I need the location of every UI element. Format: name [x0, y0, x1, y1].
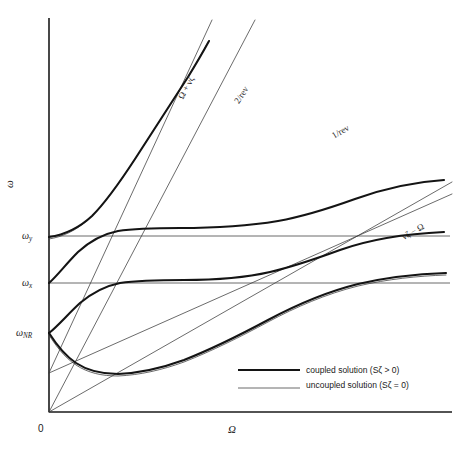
y-tick-omega-nr-base: ω	[16, 327, 23, 338]
omega-plus-nu-zeta-line	[49, 20, 212, 373]
legend-line-placeholder-uncoupled	[236, 379, 298, 391]
y-tick-omega-y-base: ω	[22, 230, 29, 241]
legend-label-coupled: coupled solution (Sζ > 0)	[306, 365, 399, 375]
y-tick-omega-nr-sub: NR	[23, 332, 32, 340]
y-axis-label: ω	[4, 180, 15, 188]
origin-label: 0	[38, 424, 44, 434]
legend: coupled solution (Sζ > 0) uncoupled solu…	[236, 362, 448, 392]
figure-container: ω Ω 0 ωy ωx ωNR Ω + νζ 2/rev 1/rev νζ − …	[0, 0, 456, 466]
legend-label-uncoupled: uncoupled solution (Sζ = 0)	[306, 380, 409, 390]
y-tick-omega-y: ωy	[22, 231, 32, 243]
high-branch-uncoupled	[49, 44, 207, 239]
legend-item-uncoupled: uncoupled solution (Sζ = 0)	[236, 377, 448, 392]
nu-zeta-minus-omega-line	[49, 194, 452, 373]
y-tick-omega-x-sub: x	[29, 282, 32, 290]
y-tick-omega-y-sub: y	[29, 235, 32, 243]
x-axis-label: Ω	[228, 424, 236, 435]
y-tick-omega-x: ωx	[22, 278, 32, 290]
high-branch-coupled	[49, 41, 209, 237]
y-tick-omega-nr: ωNR	[16, 328, 32, 340]
legend-line-placeholder-coupled	[236, 364, 298, 376]
low-branch-uncoupled	[49, 275, 446, 376]
southwell-fan-plot	[0, 0, 456, 466]
low-branch-coupled	[49, 273, 446, 374]
lower-mid-branch-coupled	[49, 232, 444, 333]
legend-item-coupled: coupled solution (Sζ > 0)	[236, 362, 448, 377]
y-tick-omega-x-base: ω	[22, 277, 29, 288]
